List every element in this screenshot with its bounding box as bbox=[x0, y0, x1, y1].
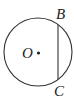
label-c: C bbox=[54, 83, 65, 99]
label-b: B bbox=[56, 6, 65, 22]
label-o: O bbox=[22, 45, 33, 61]
center-point bbox=[37, 51, 40, 54]
circle-chord-diagram: O B C bbox=[0, 0, 74, 101]
